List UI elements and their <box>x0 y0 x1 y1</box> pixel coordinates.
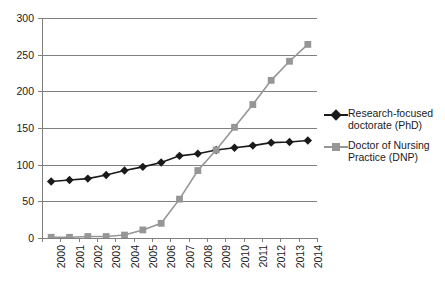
chart-legend: Research-focused doctorate (PhD) Doctor … <box>324 108 442 172</box>
y-tick-label: 0 <box>0 233 34 243</box>
x-axis-line <box>42 238 318 239</box>
x-tick-mark <box>189 238 190 242</box>
x-tick-label: 2004 <box>130 245 140 268</box>
x-tick-label: 2010 <box>240 245 250 268</box>
data-point-square-icon <box>213 147 220 154</box>
x-tick-label: 2006 <box>166 245 176 268</box>
x-tick-mark <box>280 238 281 242</box>
data-point-square-icon <box>158 220 165 227</box>
data-point-square-icon <box>249 101 256 108</box>
plot-area <box>42 18 317 238</box>
x-tick-mark <box>42 238 43 242</box>
x-tick-mark <box>317 238 318 242</box>
data-point-square-icon <box>103 233 110 238</box>
data-point-diamond-icon <box>139 163 147 171</box>
x-tick-label: 2005 <box>148 245 158 268</box>
data-point-diamond-icon <box>267 138 275 146</box>
y-tick-label: 150 <box>0 123 34 133</box>
y-tick-label: 100 <box>0 160 34 170</box>
data-point-diamond-icon <box>47 177 55 185</box>
x-tick-label: 2003 <box>111 245 121 268</box>
x-tick-label: 2000 <box>56 245 66 268</box>
x-tick-mark <box>299 238 300 242</box>
data-point-square-icon <box>176 196 183 203</box>
data-point-diamond-icon <box>230 144 238 152</box>
y-tick-label: 250 <box>0 50 34 60</box>
data-point-diamond-icon <box>102 171 110 179</box>
x-tick-mark <box>225 238 226 242</box>
series-layer <box>42 18 317 238</box>
x-tick-mark <box>207 238 208 242</box>
x-tick-label: 2002 <box>93 245 103 268</box>
data-point-diamond-icon <box>65 176 73 184</box>
data-point-square-icon <box>48 234 55 238</box>
x-tick-label: 2001 <box>75 245 85 268</box>
data-point-diamond-icon <box>194 149 202 157</box>
data-point-square-icon <box>121 232 128 238</box>
data-point-diamond-icon <box>285 138 293 146</box>
x-tick-mark <box>244 238 245 242</box>
x-tick-label: 2008 <box>203 245 213 268</box>
legend-entry-phd: Research-focused doctorate (PhD) <box>324 108 442 131</box>
x-tick-label: 2007 <box>185 245 195 268</box>
legend-key-dnp-square-icon <box>324 141 348 153</box>
data-point-diamond-icon <box>304 136 312 144</box>
x-tick-label: 2012 <box>276 245 286 268</box>
data-point-diamond-icon <box>84 174 92 182</box>
data-point-square-icon <box>231 124 238 131</box>
data-point-square-icon <box>268 77 275 84</box>
x-tick-mark <box>97 238 98 242</box>
x-tick-mark <box>170 238 171 242</box>
data-point-diamond-icon <box>120 166 128 174</box>
y-tick-label: 200 <box>0 86 34 96</box>
x-tick-mark <box>79 238 80 242</box>
x-tick-label: 2014 <box>313 245 323 268</box>
data-point-diamond-icon <box>249 141 257 149</box>
y-tick-label: 300 <box>0 13 34 23</box>
legend-label-dnp: Doctor of Nursing Practice (DNP) <box>348 140 442 163</box>
data-point-square-icon <box>66 234 73 238</box>
legend-entry-dnp: Doctor of Nursing Practice (DNP) <box>324 140 442 163</box>
data-point-square-icon <box>84 233 91 238</box>
data-point-diamond-icon <box>157 158 165 166</box>
y-tick-label: 50 <box>0 196 34 206</box>
line-chart: 050100150200250300 200020012002200320042… <box>0 0 445 286</box>
legend-label-phd: Research-focused doctorate (PhD) <box>348 108 442 131</box>
x-tick-label: 2013 <box>295 245 305 268</box>
data-point-diamond-icon <box>175 152 183 160</box>
data-point-square-icon <box>139 227 146 234</box>
x-tick-mark <box>60 238 61 242</box>
x-tick-label: 2011 <box>258 245 268 268</box>
data-point-square-icon <box>286 58 293 65</box>
x-tick-mark <box>262 238 263 242</box>
x-tick-label: 2009 <box>221 245 231 268</box>
series-line <box>51 140 308 181</box>
x-tick-mark <box>134 238 135 242</box>
data-point-square-icon <box>194 167 201 174</box>
legend-key-phd-diamond-icon <box>324 109 348 121</box>
data-point-square-icon <box>304 41 311 48</box>
x-tick-mark <box>115 238 116 242</box>
x-tick-mark <box>152 238 153 242</box>
